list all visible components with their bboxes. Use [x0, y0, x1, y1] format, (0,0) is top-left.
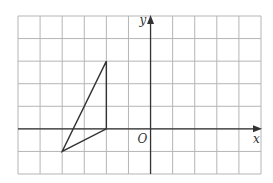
coordinate-diagram: x y O — [0, 0, 273, 183]
origin-label: O — [138, 132, 148, 146]
x-axis-label: x — [253, 132, 260, 146]
y-axis-label: y — [139, 13, 147, 27]
grid — [18, 16, 261, 174]
